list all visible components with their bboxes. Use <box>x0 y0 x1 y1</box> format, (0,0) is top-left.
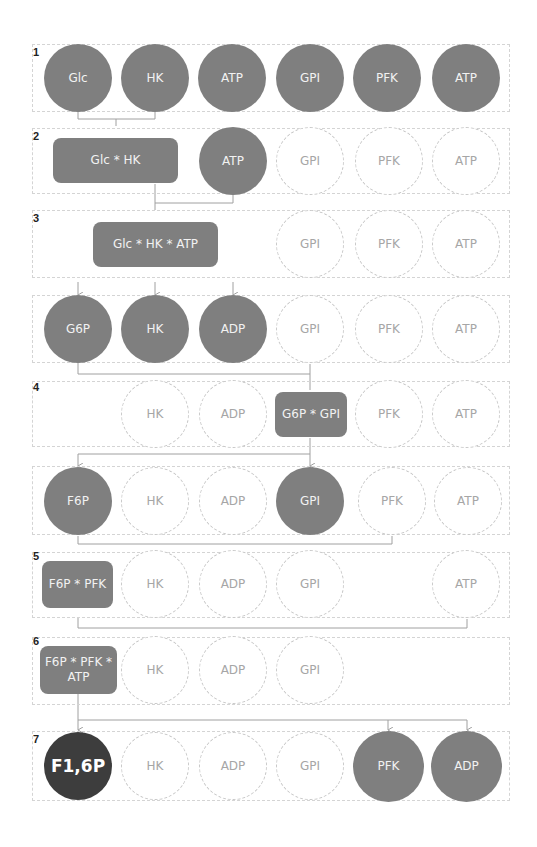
node-g6p: G6P <box>44 295 112 363</box>
step-1-label: 1 <box>33 46 39 58</box>
step-6-label: 6 <box>33 635 39 647</box>
complex-f6p-pfk-atp: F6P * PFK * ATP <box>40 646 117 694</box>
node-gpi: GPI <box>276 732 344 800</box>
node-pfk: PFK <box>355 210 423 278</box>
node-atp-2: ATP <box>432 127 500 195</box>
node-adp: ADP <box>199 550 267 618</box>
node-atp: ATP <box>432 295 500 363</box>
node-atp: ATP <box>199 127 267 195</box>
node-atp: ATP <box>198 44 266 112</box>
node-atp-2: ATP <box>432 210 500 278</box>
node-atp: ATP <box>432 550 500 618</box>
node-hk: HK <box>121 550 189 618</box>
node-pfk: PFK <box>358 467 426 535</box>
node-adp: ADP <box>199 732 267 800</box>
node-glc: Glc <box>44 44 112 112</box>
complex-glc-hk-atp: Glc * HK * ATP <box>93 222 218 267</box>
node-adp-2: ADP <box>431 731 502 802</box>
node-hk: HK <box>121 467 189 535</box>
node-atp: ATP <box>432 380 500 448</box>
node-f16p-product: F1,6P <box>44 732 112 800</box>
complex-f6p-pfk: F6P * PFK <box>42 561 113 608</box>
node-pfk: PFK <box>353 731 424 802</box>
step-3-label: 3 <box>33 212 39 224</box>
node-pfk: PFK <box>353 44 421 112</box>
node-adp: ADP <box>199 636 267 704</box>
step-7-label: 7 <box>33 733 39 745</box>
node-adp: ADP <box>199 295 267 363</box>
node-gpi: GPI <box>276 44 344 112</box>
node-gpi: GPI <box>276 550 344 618</box>
node-hk: HK <box>121 732 189 800</box>
node-hk: HK <box>121 44 189 112</box>
step-5-label: 5 <box>33 550 39 562</box>
node-atp: ATP <box>434 467 502 535</box>
step-2-label: 2 <box>33 130 39 142</box>
node-hk: HK <box>121 636 189 704</box>
node-gpi: GPI <box>276 127 344 195</box>
node-gpi: GPI <box>276 636 344 704</box>
node-pfk: PFK <box>355 380 423 448</box>
node-gpi: GPI <box>276 467 344 535</box>
node-hk: HK <box>121 380 189 448</box>
step-4-label: 4 <box>33 381 39 393</box>
node-hk: HK <box>121 295 189 363</box>
node-pfk: PFK <box>355 295 423 363</box>
node-atp-2: ATP <box>432 44 500 112</box>
node-pfk: PFK <box>355 127 423 195</box>
complex-g6p-gpi: G6P * GPI <box>275 392 347 437</box>
node-gpi: GPI <box>276 295 344 363</box>
node-adp: ADP <box>199 467 267 535</box>
node-gpi: GPI <box>276 210 344 278</box>
complex-glc-hk: Glc * HK <box>53 138 178 183</box>
node-f6p: F6P <box>44 467 112 535</box>
node-adp: ADP <box>199 380 267 448</box>
